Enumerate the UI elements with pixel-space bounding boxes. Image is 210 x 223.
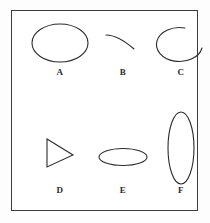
flat-ellipse-icon (94, 123, 152, 185)
figure-frame: A B C D E (11, 10, 198, 211)
shape-label-e: E (94, 185, 152, 195)
shape-panel-f: F (150, 109, 210, 201)
shape-label-f: F (150, 185, 210, 195)
shape-label-c: C (150, 67, 210, 77)
arc-icon (94, 19, 152, 69)
shape-panel-a: A (26, 19, 94, 83)
triangle-icon (26, 123, 94, 185)
shape-panel-d: D (26, 123, 94, 201)
tall-ellipse-icon (150, 109, 210, 187)
shape-panel-b: B (94, 19, 152, 83)
shape-panel-e: E (94, 123, 152, 201)
shape-label-d: D (26, 185, 94, 195)
shape-label-b: B (94, 67, 152, 77)
open-ellipse-icon (150, 19, 210, 69)
ellipse-icon (26, 19, 94, 69)
shape-label-a: A (26, 67, 94, 77)
figure-root: A B C D E (0, 0, 210, 223)
shape-panel-c: C (150, 19, 210, 83)
